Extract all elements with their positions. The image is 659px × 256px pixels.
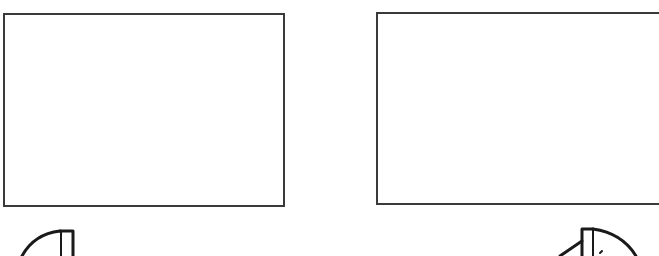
bottom-shapes [0,0,659,256]
partial-fan-shape-right-icon [560,229,636,256]
partial-fan-shape-left-icon [22,231,73,256]
